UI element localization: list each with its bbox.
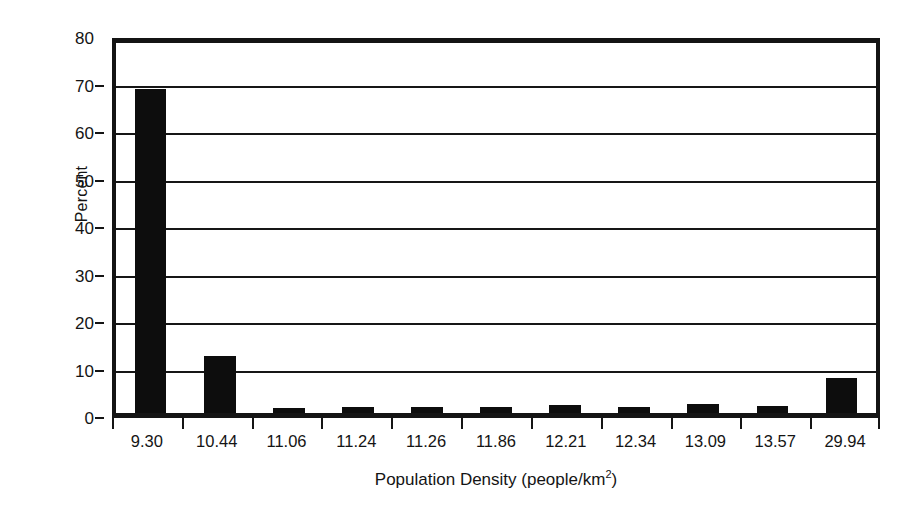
x-tick-mark: [601, 418, 603, 429]
bar: [687, 404, 719, 413]
x-tick-mark: [321, 418, 323, 429]
x-tick-label: 9.30: [112, 432, 182, 451]
x-axis-title: Population Density (people/km2): [112, 470, 880, 490]
x-axis-ticks: [112, 418, 880, 432]
y-tick-mark: [95, 180, 104, 182]
y-tick-label: 60: [75, 125, 94, 142]
y-tick-mark: [95, 227, 104, 229]
bar: [273, 408, 305, 413]
bar-chart-figure: Percent 01020304050607080 9.3010.4411.06…: [0, 0, 919, 522]
x-tick-mark: [671, 418, 673, 429]
x-axis-title-text: Population Density (people/km: [375, 470, 606, 489]
y-tick-label: 0: [85, 410, 94, 427]
bar-series: [116, 43, 876, 413]
x-tick-label: 13.57: [740, 432, 810, 451]
x-axis-title-suffix: ): [612, 470, 618, 489]
x-axis-tick-labels: 9.3010.4411.0611.2411.2611.8612.2112.341…: [112, 432, 880, 451]
y-tick-label: 50: [75, 172, 94, 189]
bar-slot: [807, 43, 876, 413]
bar: [135, 89, 167, 413]
bar-slot: [600, 43, 669, 413]
y-tick-label: 30: [75, 267, 94, 284]
y-axis-ticks: 01020304050607080: [46, 38, 104, 418]
bar-slot: [669, 43, 738, 413]
bar-slot: [461, 43, 530, 413]
y-tick-mark: [95, 370, 104, 372]
x-tick-mark: [112, 418, 114, 429]
x-tick-label: 29.94: [810, 432, 880, 451]
bar-slot: [531, 43, 600, 413]
bar: [480, 407, 512, 413]
x-tick-mark: [252, 418, 254, 429]
x-tick-label: 11.24: [321, 432, 391, 451]
bar: [826, 378, 858, 413]
y-tick-label: 80: [75, 30, 94, 47]
bar: [204, 356, 236, 413]
y-tick-label: 10: [75, 362, 94, 379]
x-tick-mark: [531, 418, 533, 429]
y-tick-label: 20: [75, 315, 94, 332]
x-tick-mark: [878, 418, 880, 429]
bar-slot: [323, 43, 392, 413]
y-tick-mark: [95, 417, 104, 419]
y-tick-mark: [95, 275, 104, 277]
bar: [618, 407, 650, 413]
y-tick-mark: [95, 85, 104, 87]
bar-slot: [185, 43, 254, 413]
bar: [342, 407, 374, 413]
plot-area: [112, 38, 880, 418]
x-tick-label: 10.44: [182, 432, 252, 451]
x-tick-mark: [810, 418, 812, 429]
x-tick-label: 12.21: [531, 432, 601, 451]
y-tick-mark: [95, 322, 104, 324]
x-tick-mark: [740, 418, 742, 429]
x-tick-label: 11.06: [252, 432, 322, 451]
bar: [757, 406, 789, 413]
bar-slot: [116, 43, 185, 413]
x-tick-mark: [182, 418, 184, 429]
bar: [411, 407, 443, 413]
bar: [549, 405, 581, 413]
y-tick-mark: [95, 132, 104, 134]
bar-slot: [738, 43, 807, 413]
y-tick-label: 70: [75, 77, 94, 94]
bar-slot: [392, 43, 461, 413]
x-tick-label: 11.26: [391, 432, 461, 451]
x-tick-label: 13.09: [671, 432, 741, 451]
x-tick-mark: [391, 418, 393, 429]
y-tick-label: 40: [75, 220, 94, 237]
bar-slot: [254, 43, 323, 413]
x-tick-mark: [461, 418, 463, 429]
x-tick-label: 12.34: [601, 432, 671, 451]
x-tick-label: 11.86: [461, 432, 531, 451]
